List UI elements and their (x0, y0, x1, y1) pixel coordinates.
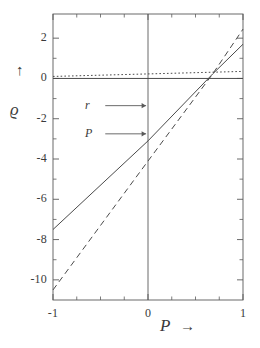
arrowhead-P-icon (142, 131, 147, 136)
plot-canvas (0, 0, 260, 348)
y-tick-label: -10 (17, 272, 47, 287)
chart-figure: 20-2-4-6-8-10 -101 ϱ ↑ P → rP (0, 0, 260, 348)
y-tick-label: 2 (17, 30, 47, 45)
x-tick-label: 0 (136, 306, 160, 321)
y-tick-label: -8 (17, 232, 47, 247)
annotation-arrows (105, 103, 146, 136)
y-tick-label: -2 (17, 111, 47, 126)
x-tick-label: -1 (41, 306, 65, 321)
arrowhead-r-icon (142, 103, 147, 108)
x-tick-label: 1 (231, 306, 255, 321)
annotation-label-r: r (85, 98, 90, 113)
x-axis-arrow-icon: → (180, 318, 195, 335)
y-axis-title: ϱ (10, 100, 19, 120)
x-axis-title: P (160, 316, 170, 336)
y-tick-label: -4 (17, 151, 47, 166)
y-axis-arrow-icon: ↑ (16, 62, 24, 79)
annotation-label-P: P (85, 126, 92, 141)
y-tick-label: -6 (17, 191, 47, 206)
